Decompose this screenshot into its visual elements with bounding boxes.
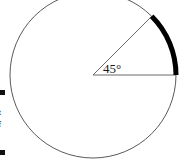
figure-container: 45° t f . <box>0 0 183 167</box>
margin-bullet-icon <box>0 150 5 155</box>
diagonal-radius-line <box>93 16 152 75</box>
margin-text-fragment: t <box>0 108 1 117</box>
highlighted-arc <box>152 16 176 75</box>
margin-bullet-icon <box>0 90 5 95</box>
circle-outline <box>10 0 176 158</box>
angle-label: 45° <box>103 62 121 75</box>
margin-text-fragment: f <box>0 120 1 129</box>
circle-diagram-svg <box>0 0 183 167</box>
margin-text-column: t f . <box>0 0 9 167</box>
